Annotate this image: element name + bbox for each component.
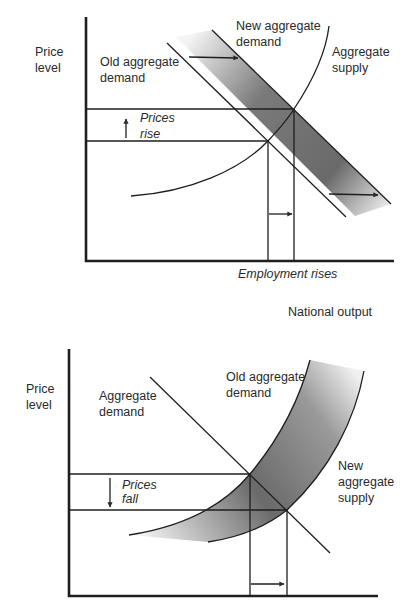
old-aggregate-demand-label: Old aggregate demand <box>100 55 183 85</box>
new-aggregate-supply-label: New aggregate supply <box>338 459 398 505</box>
aggregate-demand-label: Aggregate demand <box>99 389 160 419</box>
aggregate-demand-supply-diagrams: Price level Old aggregate demand New agg… <box>0 0 413 602</box>
aggregate-supply-label: Aggregate supply <box>332 45 393 75</box>
prices-fall-label: Prices fall <box>122 478 160 506</box>
bottom-chart: Price level Aggregate demand Old aggrega… <box>26 349 398 597</box>
prices-rise-label: Prices rise <box>140 111 178 141</box>
national-output-label: National output <box>288 305 373 319</box>
bottom-y-axis-label: Price level <box>26 382 58 412</box>
top-chart: Price level Old aggregate demand New agg… <box>35 17 394 319</box>
old-aggregate-demand-line <box>167 43 346 217</box>
old-aggregate-curve-label: Old aggregate demand <box>226 370 309 400</box>
new-aggregate-demand-label: New aggregate demand <box>236 19 324 49</box>
top-y-axis-label: Price level <box>35 45 67 75</box>
employment-rises-label: Employment rises <box>238 267 337 281</box>
